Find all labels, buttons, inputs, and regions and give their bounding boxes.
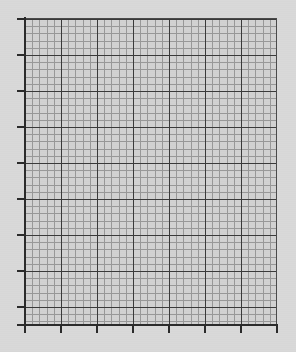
plot-area[interactable] [25, 19, 277, 325]
y-tick-4 [17, 162, 25, 164]
x-tick-3 [132, 325, 134, 333]
figure-canvas [0, 0, 296, 352]
x-tick-4 [168, 325, 170, 333]
y-tick-8 [17, 306, 25, 308]
x-tick-6 [240, 325, 242, 333]
y-tick-1 [17, 54, 25, 56]
major-gridlines [25, 19, 277, 325]
y-tick-6 [17, 234, 25, 236]
y-tick-7 [17, 270, 25, 272]
x-tick-2 [96, 325, 98, 333]
axis-spine-top [25, 18, 277, 19]
axis-spine-left [24, 17, 26, 327]
x-tick-1 [60, 325, 62, 333]
x-tick-5 [204, 325, 206, 333]
y-tick-3 [17, 126, 25, 128]
x-tick-7 [276, 325, 278, 333]
x-tick-0 [24, 325, 26, 333]
y-tick-5 [17, 198, 25, 200]
y-tick-2 [17, 90, 25, 92]
y-tick-0 [17, 18, 25, 20]
axis-spine-right [276, 19, 277, 325]
